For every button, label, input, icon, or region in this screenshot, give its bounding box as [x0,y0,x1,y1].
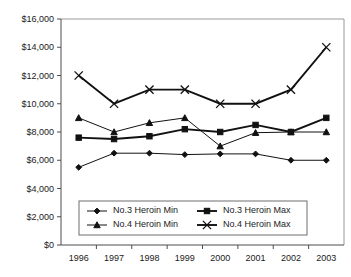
y-tick-label: $8,000 [26,127,54,137]
y-tick-label: $6,000 [26,155,54,165]
series-1-pt-3-square-marker [182,126,187,131]
series-2-pt-0-triangle-marker [75,115,81,121]
series-1-pt-2-square-marker [147,134,152,139]
series-3-pt-7-cross-marker [322,43,330,51]
heroin-price-line-chart: $0$2,000$4,000$6,000$8,000$10,000$12,000… [0,0,351,277]
legend-label-0: No.3 Heroin Min [113,205,178,215]
y-tick-label: $16,000 [21,14,54,24]
series-1-pt-0-square-marker [76,135,81,140]
series-0-pt-6-diamond-marker [288,157,294,163]
x-tick-label-2001: 2001 [246,253,266,263]
x-tick-label-2000: 2000 [210,253,230,263]
legend-label-2: No.4 Heroin Min [113,219,178,229]
x-tick-label-1996: 1996 [69,253,89,263]
x-tick-label-1997: 1997 [104,253,124,263]
x-tick-label-2002: 2002 [281,253,301,263]
y-tick-label: $0 [44,240,54,250]
series-3-pt-0-cross-marker [75,71,83,79]
y-tick-label: $14,000 [21,42,54,52]
x-tick-label-1998: 1998 [139,253,159,263]
y-tick-label: $10,000 [21,99,54,109]
y-tick-label: $4,000 [26,184,54,194]
series-0-pt-3-diamond-marker [182,152,188,158]
series-0-pt-1-diamond-marker [111,150,117,156]
y-tick-label: $2,000 [26,212,54,222]
legend-label-3: No.4 Heroin Max [223,219,291,229]
series-0-pt-5-diamond-marker [253,151,259,157]
series-3-pt-6-cross-marker [287,86,295,94]
series-2-pt-3-triangle-marker [182,115,188,121]
chart-canvas: $0$2,000$4,000$6,000$8,000$10,000$12,000… [0,0,351,277]
series-0-pt-2-diamond-marker [147,150,153,156]
series-3-pt-1-cross-marker [110,100,118,108]
series-0-pt-4-diamond-marker [217,151,223,157]
series-0-pt-7-diamond-marker [323,157,329,163]
legend-label-1: No.3 Heroin Max [223,205,291,215]
x-tick-label-1999: 1999 [175,253,195,263]
series-0-pt-0-diamond-marker [76,164,82,170]
series-1-pt-1-square-marker [111,136,116,141]
series-1-pt-5-square-marker [253,122,258,127]
legend-swatch-1-square-marker [204,208,209,213]
x-tick-label-2003: 2003 [316,253,336,263]
series-1-pt-7-square-marker [324,115,329,120]
series-line-3 [79,47,327,104]
y-tick-label: $12,000 [21,71,54,81]
series-1-pt-4-square-marker [217,129,222,134]
